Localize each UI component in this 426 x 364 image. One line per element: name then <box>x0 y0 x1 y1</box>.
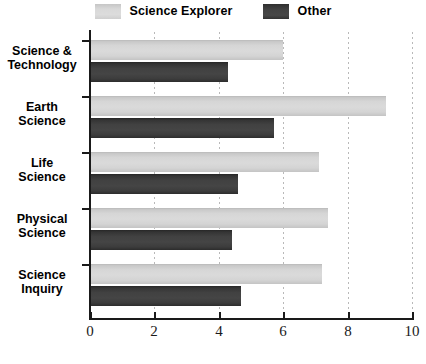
x-axis-tick <box>219 312 221 320</box>
x-axis-tick-label: 10 <box>392 323 426 340</box>
x-axis-tick-label: 4 <box>199 323 239 340</box>
x-axis-tick-label: 8 <box>328 323 368 340</box>
x-axis-tick-label: 6 <box>263 323 303 340</box>
bar-chart: Science Explorer Other Science & Technol… <box>0 0 426 364</box>
x-axis-tick-label: 0 <box>70 323 110 340</box>
x-axis-tick <box>412 312 414 320</box>
y-axis-tick <box>82 152 90 154</box>
chart-legend: Science Explorer Other <box>0 0 426 22</box>
legend-swatch-icon-science-explorer <box>95 4 121 19</box>
legend-swatch-icon-other <box>263 4 289 19</box>
y-axis-tick <box>82 96 90 98</box>
x-axis-tick <box>283 312 285 320</box>
y-axis-tick <box>82 208 90 210</box>
x-axis-tick-label: 2 <box>134 323 174 340</box>
legend-entry-other: Other <box>263 4 332 19</box>
x-axis-line <box>89 318 413 320</box>
legend-label-other: Other <box>298 4 332 18</box>
x-axis-tick <box>154 312 156 320</box>
x-axis-tick <box>348 312 350 320</box>
plot-area: Science & Technology Earth Science Life … <box>0 22 426 364</box>
legend-label-science-explorer: Science Explorer <box>130 4 233 18</box>
x-axis-tick <box>90 312 92 320</box>
legend-entry-science-explorer: Science Explorer <box>95 4 233 19</box>
y-axis-tick <box>82 40 90 42</box>
y-axis-line <box>89 30 91 318</box>
axes: 0246810 <box>0 22 426 364</box>
y-axis-tick <box>82 264 90 266</box>
